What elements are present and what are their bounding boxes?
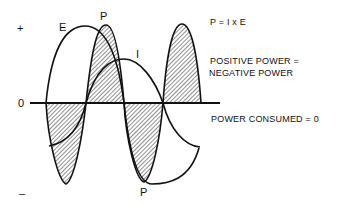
curve-label-p-bottom: P <box>140 186 147 198</box>
power-waveform-diagram <box>0 0 339 209</box>
negative-power-label: NEGATIVE POWER <box>209 68 293 78</box>
curve-label-i: I <box>136 48 139 60</box>
zero-label: 0 <box>18 97 24 109</box>
curve-label-p-top: P <box>100 10 107 22</box>
curve-label-e: E <box>59 21 66 33</box>
plus-sign: + <box>17 22 23 34</box>
formula-label: P = I x E <box>210 17 246 27</box>
minus-sign: – <box>19 187 25 199</box>
power-consumed-label: POWER CONSUMED = 0 <box>211 114 319 124</box>
positive-power-label: POSITIVE POWER = <box>210 56 299 66</box>
